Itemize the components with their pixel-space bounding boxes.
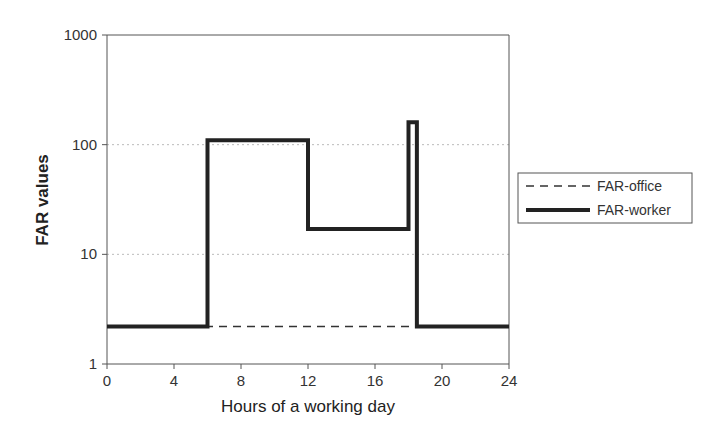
y-tick-label-1000: 1000 xyxy=(64,26,97,43)
y-axis-title: FAR values xyxy=(33,154,52,246)
x-tick-label-24: 24 xyxy=(501,372,518,389)
series-line-far-worker xyxy=(107,122,509,326)
x-tick-label-12: 12 xyxy=(300,372,317,389)
x-axis-title: Hours of a working day xyxy=(221,397,395,416)
x-tick-label-8: 8 xyxy=(237,372,245,389)
legend-label-office: FAR-office xyxy=(597,178,662,194)
x-tick-label-0: 0 xyxy=(103,372,111,389)
legend-label-worker: FAR-worker xyxy=(597,202,671,218)
legend: FAR-office FAR-worker xyxy=(518,173,692,223)
chart: 110100100004812162024 Hours of a working… xyxy=(0,0,727,441)
x-tick-label-20: 20 xyxy=(434,372,451,389)
x-tick-label-4: 4 xyxy=(170,372,178,389)
x-tick-label-16: 16 xyxy=(367,372,384,389)
y-tick-label-100: 100 xyxy=(72,136,97,153)
y-tick-label-1: 1 xyxy=(89,355,97,372)
y-tick-label-10: 10 xyxy=(80,245,97,262)
